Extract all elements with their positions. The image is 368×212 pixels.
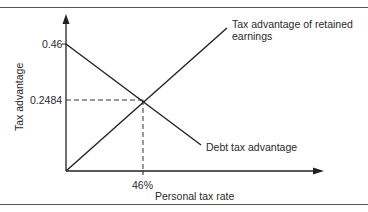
y-tick-label-mid: 0.2484 [30,94,62,106]
retained-earnings-label: Tax advantage of retained earnings [232,18,353,42]
debt-tax-advantage-line [66,44,201,145]
debt-tax-advantage-label: Debt tax advantage [206,141,297,153]
y-tick-label-top: 0.46 [42,38,62,50]
x-axis-label: Personal tax rate [155,190,234,202]
y-axis-label: Tax advantage [13,63,25,131]
x-axis-arrow-icon [313,168,324,175]
retained-earnings-label-line1: Tax advantage of retained [232,18,353,30]
x-tick-label: 46% [132,179,153,191]
y-axis-arrow-icon [63,14,70,24]
retained-earnings-label-line2: earnings [232,30,353,42]
